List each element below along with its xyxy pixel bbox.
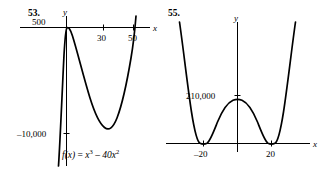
y-label-500: 500	[32, 17, 46, 27]
formula-53-term2: 40x	[102, 150, 116, 160]
formula-53-minus: –	[93, 150, 103, 160]
formula-53: f(x) = x3 – 40x2	[62, 148, 119, 160]
formula-53-equals: =	[75, 150, 85, 160]
formula-53-fx: f(x)	[62, 150, 75, 160]
graph-55: 210,000 –20 20 x y	[162, 0, 324, 181]
figure-panel-53: 53. 500 –10,000 30 50 x y f(x) = x3 – 40…	[0, 0, 162, 181]
figure-panel-55: 55. 210,000 –20 20 x y f(x) = (x – 20)2(…	[162, 0, 324, 181]
x-label-50: 50	[128, 33, 138, 43]
formula-53-exp2: 2	[116, 148, 119, 155]
x-label-neg-20: –20	[193, 149, 208, 159]
y-label-210000: 210,000	[186, 91, 216, 101]
axis-name-x-53: x	[152, 23, 157, 33]
x-label-20: 20	[266, 149, 276, 159]
y-label-neg-10000: –10,000	[16, 129, 47, 139]
axis-name-y-53: y	[62, 7, 67, 17]
x-label-30: 30	[97, 33, 107, 43]
axis-name-y-55: y	[233, 13, 238, 23]
axis-name-x-55: x	[312, 139, 317, 149]
figure-sheet: 53. 500 –10,000 30 50 x y f(x) = x3 – 40…	[0, 0, 324, 181]
